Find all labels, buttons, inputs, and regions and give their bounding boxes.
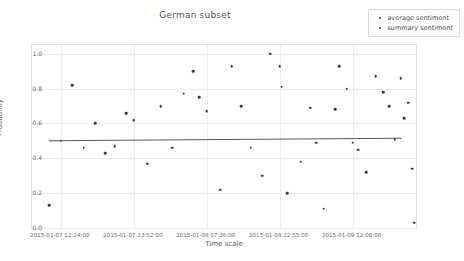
data-point [104, 152, 107, 155]
data-point [374, 75, 377, 78]
figure-scatter-german-subset: German subset average sentiment summary … [0, 0, 464, 261]
legend-marker-icon [373, 17, 387, 19]
y-axis-tick-label: 1.0 [2, 49, 42, 56]
data-point [413, 221, 416, 224]
data-point [198, 96, 201, 99]
chart-legend: average sentiment summary sentiment [368, 9, 460, 37]
data-point [300, 160, 303, 163]
data-point [205, 110, 208, 113]
gridline-horizontal [32, 123, 416, 124]
data-point [334, 108, 337, 111]
data-point [125, 112, 128, 115]
data-point [323, 208, 326, 211]
data-point [338, 65, 341, 68]
data-point [407, 101, 410, 104]
legend-item-summary-sentiment[interactable]: summary sentiment [373, 23, 453, 33]
data-point [240, 105, 243, 108]
y-axis-tick-label: 0.2 [2, 189, 42, 196]
chart-title: German subset [0, 10, 390, 20]
data-point [382, 91, 385, 94]
data-point [113, 145, 116, 148]
data-point [357, 148, 360, 151]
gridline-horizontal [32, 54, 416, 55]
x-axis-tick-label: 2015-01-07 12:24:00 [30, 232, 89, 238]
data-point [171, 147, 174, 150]
data-point [146, 162, 149, 165]
data-point [94, 122, 97, 125]
data-point [71, 84, 74, 87]
data-point [365, 171, 368, 174]
data-point [286, 192, 289, 195]
gridline-horizontal [32, 193, 416, 194]
data-point [132, 119, 135, 122]
x-axis-label: Time scale [0, 240, 448, 248]
data-point [403, 117, 406, 120]
data-point [351, 141, 354, 144]
plot-area [31, 44, 417, 229]
legend-item-label: summary sentiment [387, 24, 453, 32]
legend-marker-icon [373, 27, 387, 29]
data-point [159, 105, 162, 108]
legend-item-average-sentiment[interactable]: average sentiment [373, 13, 453, 23]
gridline-vertical [353, 45, 354, 228]
y-axis-tick-label: 0.4 [2, 154, 42, 161]
x-axis-tick-label: 2015-01-07 23:52:00 [103, 232, 162, 238]
gridline-vertical [61, 45, 62, 228]
trend-line [49, 138, 402, 142]
data-point [83, 147, 86, 150]
y-axis-tick-label: 0.6 [2, 119, 42, 126]
data-point [315, 141, 318, 144]
gridline-vertical [280, 45, 281, 228]
legend-item-label: average sentiment [387, 14, 449, 22]
gridline-horizontal [32, 228, 416, 229]
x-axis-tick-label: 2015-01-08 07:36:00 [176, 232, 235, 238]
gridline-vertical [207, 45, 208, 228]
data-point [269, 52, 272, 55]
data-point [48, 204, 51, 207]
y-axis-tick-label: 0.8 [2, 84, 42, 91]
data-point [280, 86, 283, 89]
x-axis-tick-label: 2015-01-09 12:08:00 [322, 232, 381, 238]
data-point [346, 87, 349, 90]
gridline-horizontal [32, 89, 416, 90]
data-point [309, 106, 312, 109]
data-point [219, 188, 222, 191]
data-point [192, 70, 195, 73]
gridline-vertical [134, 45, 135, 228]
data-point [182, 93, 185, 96]
data-point [399, 77, 402, 80]
data-point [411, 167, 414, 170]
x-axis-tick-label: 2015-01-08 22:55:00 [249, 232, 308, 238]
data-point [261, 174, 264, 177]
data-point [250, 147, 253, 150]
y-axis-tick-label: 0.0 [2, 224, 42, 231]
y-axis-label: Probability [0, 99, 4, 136]
gridline-horizontal [32, 158, 416, 159]
data-point [230, 65, 233, 68]
data-point [388, 105, 391, 108]
data-point [278, 65, 281, 68]
